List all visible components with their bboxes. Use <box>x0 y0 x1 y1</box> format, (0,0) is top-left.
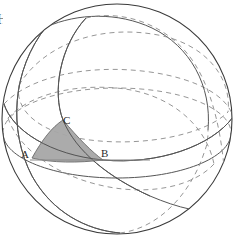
page-corner-artifact: H <box>0 13 3 29</box>
vertex-label-c: C <box>63 115 70 126</box>
figure-container: H A B C <box>0 0 237 240</box>
vertex-label-b: B <box>101 148 108 159</box>
sphere-outline <box>2 4 232 234</box>
sphere-diagram <box>0 0 237 240</box>
vertex-label-a: A <box>21 149 29 160</box>
